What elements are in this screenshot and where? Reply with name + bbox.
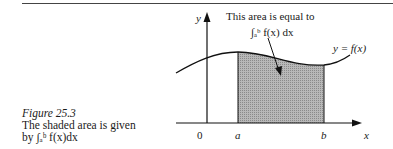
a-label: a — [235, 129, 241, 141]
curve-label: y = f(x) — [333, 42, 366, 54]
annotation-text: This area is equal to — [226, 10, 315, 22]
figure-caption: Figure 25.3 The shaded area is given by … — [22, 107, 136, 143]
x-axis-label: x — [364, 129, 369, 141]
caption-title: Figure 25.3 — [22, 107, 136, 119]
shaded-area — [238, 52, 324, 123]
origin-label: 0 — [197, 129, 203, 141]
b-label: b — [321, 129, 327, 141]
annotation-integral: ∫ₐᵇ f(x) dx — [251, 26, 293, 38]
caption-line-1: The shaded area is given — [22, 119, 136, 131]
caption-line-2: by ∫ₐᵇ f(x)dx — [22, 131, 136, 143]
y-axis-label: y — [196, 12, 201, 24]
